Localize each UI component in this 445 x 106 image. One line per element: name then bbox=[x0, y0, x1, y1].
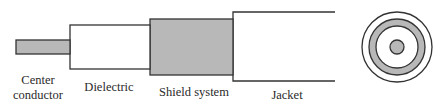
side-view bbox=[16, 12, 335, 81]
label-shield-system: Shield system bbox=[159, 85, 229, 99]
jacket-segment bbox=[233, 12, 335, 81]
cross-section bbox=[362, 12, 432, 82]
label-dielectric: Dielectric bbox=[84, 80, 134, 94]
shield-segment bbox=[150, 19, 233, 75]
label-center-conductor-line1: Center bbox=[21, 73, 55, 87]
center-conductor-segment bbox=[16, 40, 70, 54]
cross-section-center-conductor bbox=[390, 40, 404, 54]
coax-diagram: Center conductor Dielectric Shield syste… bbox=[0, 0, 445, 106]
dielectric-segment bbox=[70, 25, 150, 69]
label-center-conductor-line2: conductor bbox=[13, 88, 64, 102]
label-jacket: Jacket bbox=[271, 88, 303, 102]
